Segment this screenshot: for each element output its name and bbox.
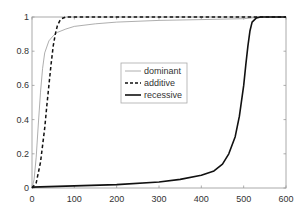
x-axis-tick-labels: 0100200300400500600 (29, 194, 293, 204)
x-tick-label: 100 (67, 194, 82, 204)
legend-label-dominant: dominant (144, 66, 182, 76)
x-tick-label: 400 (194, 194, 209, 204)
y-tick-label: 1 (24, 12, 29, 22)
y-tick-label: 0.2 (16, 149, 29, 159)
line-chart: 0100200300400500600 00.20.40.60.81 domin… (0, 0, 308, 211)
legend-label-additive: additive (144, 78, 175, 88)
legend-label-recessive: recessive (144, 90, 182, 100)
y-tick-label: 0 (24, 183, 29, 193)
x-tick-label: 500 (236, 194, 251, 204)
x-tick-label: 0 (29, 194, 34, 204)
y-tick-label: 0.6 (16, 80, 29, 90)
x-tick-label: 600 (278, 194, 293, 204)
y-axis-tick-labels: 00.20.40.60.81 (16, 12, 29, 193)
y-tick-label: 0.4 (16, 115, 29, 125)
y-tick-label: 0.8 (16, 46, 29, 56)
x-tick-label: 300 (151, 194, 166, 204)
legend: dominant additive recessive (121, 63, 187, 103)
x-tick-label: 200 (109, 194, 124, 204)
